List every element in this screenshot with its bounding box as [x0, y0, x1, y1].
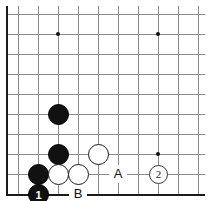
stone-white[interactable]: [48, 164, 69, 185]
point-label-b: B: [69, 185, 87, 201]
grid-line-horizontal: [6, 94, 205, 95]
move-marker-number: 2: [150, 166, 167, 183]
stone-black[interactable]: [48, 104, 69, 125]
grid-line-horizontal: [6, 54, 205, 55]
move-marker-circled[interactable]: 2: [149, 165, 168, 184]
grid-line-vertical: [18, 6, 19, 194]
board-edge-left: [6, 6, 8, 194]
grid-line-horizontal: [6, 134, 205, 135]
grid-line-horizontal: [6, 14, 205, 15]
grid-line-vertical: [178, 6, 179, 194]
stone-black[interactable]: [28, 164, 49, 185]
star-point: [56, 32, 60, 36]
grid-line-vertical: [198, 6, 199, 194]
stone-move-number: 1: [29, 185, 48, 201]
grid-line-vertical: [138, 6, 139, 194]
stone-black[interactable]: [48, 144, 69, 165]
grid-line-horizontal: [6, 34, 205, 35]
star-point: [156, 32, 160, 36]
grid-line-horizontal: [6, 74, 205, 75]
star-point: [156, 152, 160, 156]
grid-line-vertical: [98, 6, 99, 194]
stone-white[interactable]: [68, 164, 89, 185]
stone-black[interactable]: 1: [28, 184, 49, 201]
point-label-a: A: [109, 165, 127, 183]
stone-white[interactable]: [88, 144, 109, 165]
go-board-diagram: 12AB: [0, 0, 208, 201]
grid-line-horizontal: [6, 114, 205, 115]
